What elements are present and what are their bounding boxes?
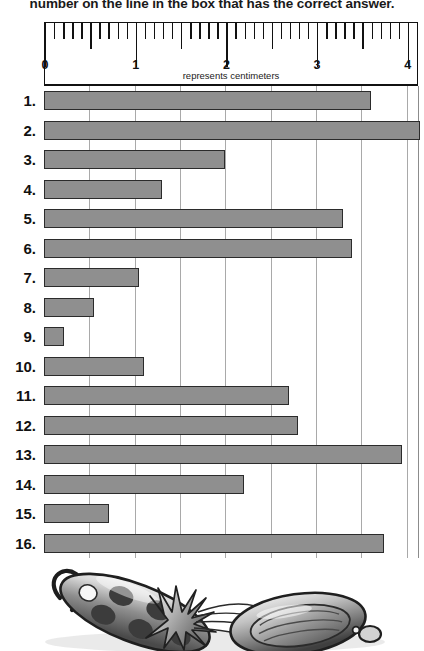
ruler-minor-tick: [127, 23, 128, 39]
measure-bar-14[interactable]: [44, 475, 244, 494]
chart-row: 3.: [0, 145, 424, 175]
ruler-minor-tick: [381, 23, 382, 39]
ruler-minor-tick: [72, 23, 73, 39]
ruler-minor-tick: [235, 23, 236, 39]
chart-row: 15.: [0, 499, 424, 529]
row-label-11: 11.: [0, 381, 36, 411]
row-label-15: 15.: [0, 499, 36, 529]
ruler-minor-tick: [245, 23, 246, 39]
chart-row: 8.: [0, 293, 424, 323]
ruler-half-tick: [362, 23, 363, 49]
ruler-minor-tick: [353, 23, 354, 39]
chart-row: 14.: [0, 470, 424, 500]
page-title: number on the line in the box that has t…: [0, 0, 424, 11]
measure-bar-5[interactable]: [44, 209, 343, 228]
chart-row: 11.: [0, 381, 424, 411]
ruler-half-tick: [272, 23, 273, 49]
ruler-minor-tick: [81, 23, 82, 39]
chart-row: 10.: [0, 352, 424, 382]
ruler-caption: represents centimeters: [44, 70, 418, 81]
ruler-minor-tick: [344, 23, 345, 39]
row-label-14: 14.: [0, 470, 36, 500]
ruler-minor-tick: [99, 23, 100, 39]
chart-row: 5.: [0, 204, 424, 234]
worksheet-page: number on the line in the box that has t…: [0, 0, 424, 651]
row-label-12: 12.: [0, 411, 36, 441]
lure-illustration: [0, 558, 424, 651]
ruler-half-tick: [181, 23, 182, 49]
measure-bar-12[interactable]: [44, 416, 298, 435]
ruler-minor-tick: [290, 23, 291, 39]
row-label-3: 3.: [0, 145, 36, 175]
chart-row: 2.: [0, 116, 424, 146]
measure-bar-1[interactable]: [44, 91, 371, 110]
row-label-8: 8.: [0, 293, 36, 323]
chart-row: 7.: [0, 263, 424, 293]
row-label-2: 2.: [0, 116, 36, 146]
ruler-minor-tick: [399, 23, 400, 39]
ruler-minor-tick: [172, 23, 173, 39]
row-label-13: 13.: [0, 440, 36, 470]
ruler-minor-tick: [118, 23, 119, 39]
row-label-4: 4.: [0, 175, 36, 205]
ruler-minor-tick: [63, 23, 64, 39]
ruler-minor-tick: [308, 23, 309, 39]
ruler-minor-tick: [190, 23, 191, 39]
ruler-minor-tick: [390, 23, 391, 39]
chart-row: 16.: [0, 529, 424, 559]
ruler-minor-tick: [372, 23, 373, 39]
ruler-minor-tick: [199, 23, 200, 39]
row-label-16: 16.: [0, 529, 36, 559]
measure-bar-10[interactable]: [44, 357, 144, 376]
ruler-minor-tick: [299, 23, 300, 39]
ruler-minor-tick: [326, 23, 327, 39]
ruler-minor-tick: [54, 23, 55, 39]
measure-bar-11[interactable]: [44, 386, 289, 405]
ruler-minor-tick: [145, 23, 146, 39]
ruler-minor-tick: [263, 23, 264, 39]
ruler-minor-tick: [281, 23, 282, 39]
ruler-minor-tick: [208, 23, 209, 39]
ruler-half-tick: [90, 23, 91, 49]
measure-bar-8[interactable]: [44, 298, 94, 317]
chart-rows: 1.2.3.4.5.6.7.8.9.10.11.12.13.14.15.16.: [0, 86, 424, 558]
row-label-10: 10.: [0, 352, 36, 382]
row-label-5: 5.: [0, 204, 36, 234]
row-label-9: 9.: [0, 322, 36, 352]
ruler-minor-tick: [217, 23, 218, 39]
ruler-minor-tick: [163, 23, 164, 39]
chart-row: 4.: [0, 175, 424, 205]
measure-bar-3[interactable]: [44, 150, 225, 169]
measure-bar-4[interactable]: [44, 180, 162, 199]
measure-bar-13[interactable]: [44, 445, 402, 464]
measure-bar-7[interactable]: [44, 268, 139, 287]
row-label-1: 1.: [0, 86, 36, 116]
measure-bar-16[interactable]: [44, 534, 384, 553]
ruler-minor-tick: [335, 23, 336, 39]
measure-bar-9[interactable]: [44, 327, 64, 346]
row-label-6: 6.: [0, 234, 36, 264]
fishing-lure-icon: [0, 558, 424, 651]
ruler-minor-tick: [154, 23, 155, 39]
chart-row: 9.: [0, 322, 424, 352]
measure-bar-2[interactable]: [44, 121, 420, 140]
measure-bar-6[interactable]: [44, 239, 352, 258]
measure-bar-15[interactable]: [44, 504, 109, 523]
chart-row: 12.: [0, 411, 424, 441]
ruler-minor-tick: [254, 23, 255, 39]
ruler-minor-tick: [417, 23, 418, 39]
chart-row: 6.: [0, 234, 424, 264]
chart-row: 13.: [0, 440, 424, 470]
chart-row: 1.: [0, 86, 424, 116]
bar-chart: 1.2.3.4.5.6.7.8.9.10.11.12.13.14.15.16.: [0, 86, 424, 558]
row-label-7: 7.: [0, 263, 36, 293]
ruler-minor-tick: [108, 23, 109, 39]
